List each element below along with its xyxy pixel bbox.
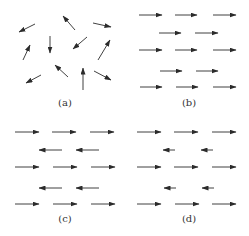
moment-arrow-icon [63, 16, 75, 30]
moment-arrow-icon [23, 45, 30, 60]
moment-arrow-icon [98, 40, 110, 60]
panel-c-label: (c) [58, 213, 72, 224]
moment-arrow-icon [94, 71, 111, 80]
panel-d-label: (d) [182, 213, 196, 224]
magnetic-ordering-diagram: (a) (b) (c) (d) [0, 0, 249, 236]
moment-arrow-icon [55, 65, 68, 77]
moment-arrow-icon [19, 24, 35, 32]
panel-a-paramagnetic [19, 16, 111, 90]
moment-arrow-icon [26, 75, 41, 83]
moment-arrow-icon [73, 37, 87, 49]
panel-c-antiferromagnetic [15, 132, 115, 204]
moment-arrow-icon [93, 23, 111, 27]
panel-b-ferromagnetic [139, 15, 236, 87]
panel-a-label: (a) [58, 97, 72, 108]
panel-b-label: (b) [182, 97, 196, 108]
panel-d-ferrimagnetic [137, 132, 236, 204]
